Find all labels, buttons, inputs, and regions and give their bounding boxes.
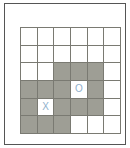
grid-cell-r2-c4[interactable] <box>71 46 88 64</box>
grid-cell-r2-c2[interactable] <box>38 46 55 64</box>
grid-cell-r6-c6[interactable] <box>104 116 121 134</box>
grid-cell-r1-c2[interactable] <box>38 28 55 46</box>
grid-cell-r1-c5[interactable] <box>88 28 105 46</box>
grid-cell-r6-c4[interactable] <box>71 116 88 134</box>
grid-cell-r2-c5[interactable] <box>88 46 105 64</box>
grid-cell-r6-c2[interactable] <box>38 116 55 134</box>
grid-cell-r4-c2[interactable] <box>38 81 55 99</box>
grid-cell-r5-c5[interactable] <box>88 99 105 117</box>
grid-cell-r1-c6[interactable] <box>104 28 121 46</box>
grid-cell-r4-c6[interactable] <box>104 81 121 99</box>
grid-cell-r3-c4[interactable] <box>71 63 88 81</box>
grid-cell-r1-c3[interactable] <box>54 28 71 46</box>
cell-marker-x: X <box>42 102 49 112</box>
cell-marker-o: O <box>75 84 83 94</box>
grid-cell-r4-c3[interactable] <box>54 81 71 99</box>
grid-cell-r4-c1[interactable] <box>21 81 38 99</box>
grid-cell-r6-c5[interactable] <box>88 116 105 134</box>
grid-cell-r3-c1[interactable] <box>21 63 38 81</box>
grid-cell-r1-c1[interactable] <box>21 28 38 46</box>
figure-frame: OX <box>4 3 126 145</box>
grid-cell-r3-c3[interactable] <box>54 63 71 81</box>
grid-cell-r6-c3[interactable] <box>54 116 71 134</box>
grid-cell-r5-c1[interactable] <box>21 99 38 117</box>
grid-cell-r4-c5[interactable] <box>88 81 105 99</box>
grid-cell-r3-c6[interactable] <box>104 63 121 81</box>
grid-cell-r3-c2[interactable] <box>38 63 55 81</box>
grid-cell-r2-c3[interactable] <box>54 46 71 64</box>
grid-cell-r4-c4[interactable]: O <box>71 81 88 99</box>
grid-cell-r5-c2[interactable]: X <box>38 99 55 117</box>
grid-cell-r3-c5[interactable] <box>88 63 105 81</box>
grid-cell-r6-c1[interactable] <box>21 116 38 134</box>
grid-cell-r5-c6[interactable] <box>104 99 121 117</box>
grid-cell-r1-c4[interactable] <box>71 28 88 46</box>
grid-cell-r5-c3[interactable] <box>54 99 71 117</box>
grid-cell-r5-c4[interactable] <box>71 99 88 117</box>
grid-cell-r2-c6[interactable] <box>104 46 121 64</box>
grid-cell-r2-c1[interactable] <box>21 46 38 64</box>
grid-board: OX <box>20 27 121 134</box>
